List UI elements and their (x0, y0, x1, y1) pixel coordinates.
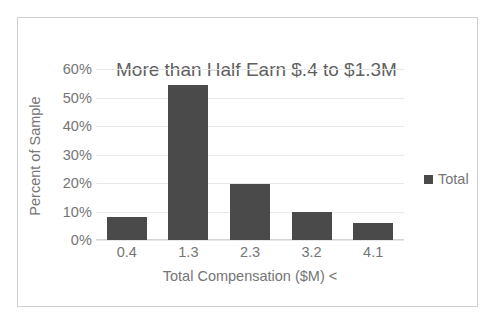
y-axis-tick-label: 50% (63, 90, 92, 106)
x-axis-tick-label: 3.2 (281, 244, 343, 260)
x-axis-title: Total Compensation ($M) < (96, 268, 404, 284)
x-axis-tick-label: 2.3 (219, 244, 281, 260)
y-axis-tick-label: 0% (71, 232, 92, 248)
bar[interactable] (107, 217, 147, 240)
x-axis-tick-label: 4.1 (342, 244, 404, 260)
legend-label: Total (438, 171, 469, 187)
bar-series-total (96, 69, 404, 240)
bar[interactable] (168, 85, 208, 240)
bar[interactable] (292, 212, 332, 241)
bar-slot (96, 69, 158, 240)
chart-frame: Percent of Sample 0%10%20%30%40%50%60% M… (17, 17, 478, 307)
bar[interactable] (230, 184, 270, 240)
bar[interactable] (353, 223, 393, 240)
bar-slot (219, 69, 281, 240)
gridline (96, 240, 404, 241)
y-axis-tick-label: 10% (63, 204, 92, 220)
x-axis-tick-labels: 0.41.32.33.24.1 (96, 244, 404, 260)
x-axis-tick-label: 1.3 (158, 244, 220, 260)
bar-slot (342, 69, 404, 240)
y-axis-tick-labels: 0%10%20%30%40%50%60% (50, 69, 92, 240)
y-axis-tick-label: 40% (63, 118, 92, 134)
legend-swatch-icon (424, 175, 433, 184)
bar-slot (158, 69, 220, 240)
y-axis-tick-label: 60% (63, 61, 92, 77)
y-axis-tick-label: 20% (63, 175, 92, 191)
plot-area (96, 69, 404, 240)
y-axis-title: Percent of Sample (26, 73, 44, 238)
y-axis-title-label: Percent of Sample (27, 96, 43, 215)
x-axis-tick-label: 0.4 (96, 244, 158, 260)
chart-legend: Total (424, 171, 469, 187)
y-axis-tick-label: 30% (63, 147, 92, 163)
bar-slot (281, 69, 343, 240)
